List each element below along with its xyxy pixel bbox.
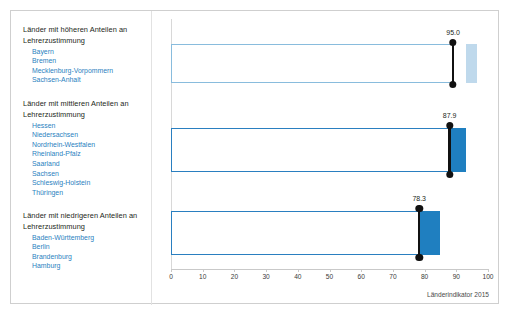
axis-tick-60: [361, 269, 362, 272]
list-item: Bremen: [23, 56, 151, 66]
axis-tick-100: [488, 269, 489, 272]
legend-group-low: Länder mit niedrigeren Anteilen an Lehre…: [23, 211, 151, 271]
axis-tick-90: [456, 269, 457, 272]
axis-tick-label-0: 0: [169, 273, 173, 280]
list-item: Rheinland-Pfalz: [23, 149, 151, 159]
axis-tick-40: [298, 269, 299, 272]
marker-cap-bottom-medium: [446, 171, 453, 178]
axis-tick-80: [425, 269, 426, 272]
axis-tick-label-50: 50: [326, 273, 333, 280]
legend-group-high: Länder mit höheren Anteilen an Lehrerzus…: [23, 25, 151, 85]
axis-tick-label-40: 40: [294, 273, 301, 280]
list-item: Nordrhein-Westfalen: [23, 140, 151, 150]
axis-tick-0: [171, 269, 172, 272]
plot-area: 0 10 20 30 40 50 60 70 80 90 100 95.0: [152, 11, 499, 305]
legend-group-low-heading: Länder mit niedrigeren Anteilen an Lehre…: [23, 211, 151, 232]
box-outline-low: [171, 211, 420, 255]
axis-tick-10: [203, 269, 204, 272]
legend-group-low-states: Baden-Württemberg Berlin Brandenburg Ham…: [23, 233, 151, 271]
axis-tick-50: [330, 269, 331, 272]
axis-tick-label-30: 30: [262, 273, 269, 280]
marker-line-high: [452, 42, 455, 85]
box-outline-medium: [171, 128, 451, 172]
box-band-high: [466, 44, 477, 83]
legend-group-medium: Länder mit mittleren Anteilen an Lehrerz…: [23, 99, 151, 197]
figure-frame: Länder mit höheren Anteilen an Lehrerzus…: [10, 10, 499, 304]
axis-tick-label-70: 70: [389, 273, 396, 280]
axis-tick-30: [266, 269, 267, 272]
value-label-high: 95.0: [446, 29, 460, 36]
list-item: Niedersachsen: [23, 130, 151, 140]
list-item: Brandenburg: [23, 252, 151, 262]
list-item: Schleswig-Holstein: [23, 178, 151, 188]
axis-tick-20: [234, 269, 235, 272]
value-label-medium: 87.9: [443, 112, 457, 119]
axis-tick-70: [393, 269, 394, 272]
legend-group-high-heading: Länder mit höheren Anteilen an Lehrerzus…: [23, 25, 151, 46]
list-item: Berlin: [23, 242, 151, 252]
category-legend-panel: Länder mit höheren Anteilen an Lehrerzus…: [11, 11, 152, 305]
legend-group-medium-states: Hessen Niedersachsen Nordrhein-Westfalen…: [23, 121, 151, 198]
list-item: Thüringen: [23, 188, 151, 198]
marker-line-medium: [448, 125, 451, 175]
axis-tick-label-80: 80: [421, 273, 428, 280]
axis-tick-label-100: 100: [482, 273, 493, 280]
marker-cap-top-high: [449, 39, 456, 46]
legend-group-high-states: Bayern Bremen Mecklenburg-Vorpommern Sac…: [23, 47, 151, 85]
value-label-low: 78.3: [412, 195, 426, 202]
box-outline-high: [171, 44, 453, 83]
axis-tick-label-10: 10: [199, 273, 206, 280]
list-item: Sachsen-Anhalt: [23, 75, 151, 85]
list-item: Saarland: [23, 159, 151, 169]
axis-tick-label-20: 20: [231, 273, 238, 280]
list-item: Baden-Württemberg: [23, 233, 151, 243]
axis-tick-label-60: 60: [358, 273, 365, 280]
box-band-medium: [450, 128, 466, 172]
axis-tick-label-90: 90: [453, 273, 460, 280]
list-item: Sachsen: [23, 169, 151, 179]
marker-cap-bottom-high: [449, 81, 456, 88]
legend-group-medium-heading: Länder mit mittleren Anteilen an Lehrerz…: [23, 99, 151, 120]
marker-cap-bottom-low: [415, 254, 422, 261]
list-item: Hamburg: [23, 261, 151, 271]
list-item: Mecklenburg-Vorpommern: [23, 66, 151, 76]
source-note: Länderindikator 2015: [427, 291, 489, 298]
list-item: Bayern: [23, 47, 151, 57]
box-band-low: [419, 211, 440, 255]
list-item: Hessen: [23, 121, 151, 131]
